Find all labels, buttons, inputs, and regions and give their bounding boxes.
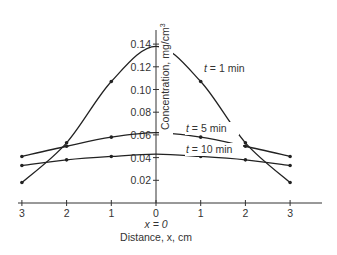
- x-tick-label: 1: [198, 207, 204, 219]
- series-t5-point: [288, 155, 292, 159]
- y-tick-label: 0.12: [131, 61, 152, 73]
- x-tick-label: 2: [242, 207, 248, 219]
- diffusion-concentration-chart: 32101230.020.040.060.080.100.120.14 x = …: [0, 0, 337, 255]
- series-label-t5: t = 5 min: [186, 122, 227, 134]
- series-t10-point: [288, 164, 292, 168]
- x-tick-label: 2: [64, 207, 70, 219]
- series-t1-point: [110, 80, 114, 84]
- series-label-t10: t = 10 min: [186, 143, 233, 155]
- x-tick-label: 3: [287, 207, 293, 219]
- y-tick-label: 0.06: [131, 129, 152, 141]
- y-tick-label: 0.04: [131, 152, 152, 164]
- y-tick-label: 0.10: [131, 84, 152, 96]
- y-axis-label: Concentration, mg/cm3: [159, 23, 171, 130]
- series-t5-point: [199, 135, 203, 139]
- series-t1-point: [244, 141, 248, 145]
- series-t1-point: [65, 141, 69, 145]
- series-t10-point: [65, 158, 69, 162]
- series-t10-point: [20, 164, 24, 168]
- x-origin-label: x = 0: [143, 218, 167, 230]
- series-t1-point: [288, 181, 292, 185]
- series-t5-point: [65, 144, 69, 148]
- x-tick-label: 1: [108, 207, 114, 219]
- series-label-t1: t = 1 min: [204, 62, 245, 74]
- series-t10-point: [244, 158, 248, 162]
- series-t5-point: [110, 135, 114, 139]
- series-t5-point: [244, 144, 248, 148]
- y-tick-label: 0.02: [131, 174, 152, 186]
- series-t1-point: [199, 80, 203, 84]
- series-t1-point: [20, 181, 24, 185]
- series-t10-point: [110, 155, 114, 159]
- y-tick-label: 0.08: [131, 106, 152, 118]
- x-tick-label: 3: [19, 207, 25, 219]
- series-t5-point: [20, 155, 24, 159]
- x-axis-label: Distance, x, cm: [120, 231, 192, 243]
